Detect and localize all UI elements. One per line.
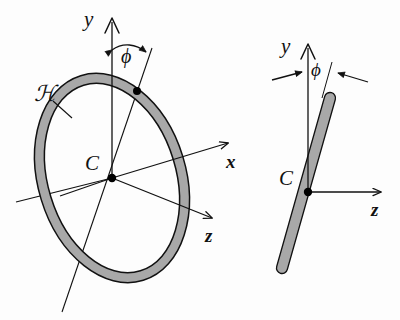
- diagram-vector-layer: [0, 0, 400, 320]
- axis-z-line: [112, 178, 212, 218]
- left-panel-group: [10, 18, 228, 312]
- angle-phi-label: ϕ: [121, 46, 131, 66]
- center-label-right: C: [279, 168, 293, 189]
- angle-phi-label-right: ϕ: [311, 60, 321, 79]
- hoop-label: ℋ: [34, 83, 56, 105]
- center-label: C: [85, 153, 99, 174]
- axis-y-label: y: [84, 9, 93, 30]
- axis-z-label-right: z: [371, 200, 378, 219]
- right-panel-group: [272, 44, 381, 274]
- center-point-marker-right: [304, 188, 312, 196]
- axis-z-label: z: [205, 226, 212, 245]
- center-point-marker: [108, 174, 116, 182]
- axis-x-negative: [16, 178, 112, 202]
- axis-y-label-right: y: [281, 36, 290, 57]
- angle-phi-arrow-right: [338, 73, 368, 82]
- axis-x-label: x: [226, 152, 236, 171]
- axis-hoop-intersection-marker: [133, 87, 141, 95]
- angle-phi-arrow-left: [272, 72, 302, 80]
- figure-canvas: y ϕ ℋ C x z y ϕ C z: [0, 0, 400, 320]
